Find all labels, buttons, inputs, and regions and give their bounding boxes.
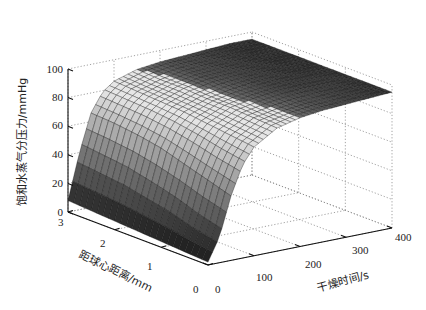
y-tick-200: 200 — [305, 258, 322, 270]
x-tick-3: 3 — [58, 216, 64, 228]
z-tick-80: 80 — [52, 91, 64, 103]
x-tick-0: 0 — [193, 283, 199, 295]
x-axis-label: 距球心距离/mm — [77, 247, 155, 295]
y-tick-100: 100 — [256, 271, 273, 283]
z-axis-label: 饱和水蒸气分压力/mmHg — [15, 78, 29, 206]
y-tick-0: 0 — [215, 283, 221, 295]
x-tick-1: 1 — [147, 260, 153, 272]
y-axis-label: 干燥时间/s — [315, 268, 370, 294]
z-tick-100: 100 — [47, 63, 64, 75]
y-tick-300: 300 — [352, 244, 369, 256]
x-tick-2: 2 — [100, 237, 106, 249]
z-tick-40: 40 — [52, 148, 64, 160]
surface-plot: 0 20 40 60 80 100 3 2 1 0 0 100 200 300 … — [0, 0, 426, 310]
z-tick-20: 20 — [52, 177, 64, 189]
z-tick-60: 60 — [52, 119, 64, 131]
y-tick-400: 400 — [395, 231, 412, 243]
